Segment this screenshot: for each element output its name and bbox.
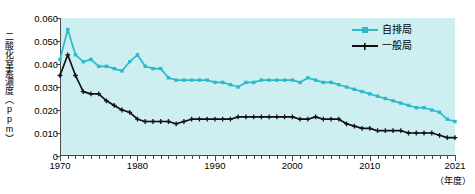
data-point-marker <box>391 99 394 102</box>
data-point-marker <box>113 67 116 70</box>
legend-item[interactable]: 自排局 <box>352 24 412 36</box>
data-point-marker <box>144 65 147 68</box>
data-point-marker <box>158 119 163 124</box>
data-point-marker <box>360 90 363 93</box>
data-point-marker <box>314 78 317 81</box>
data-point-marker <box>415 106 418 109</box>
data-point-marker <box>159 67 162 70</box>
data-point-marker <box>274 115 279 120</box>
data-point-marker <box>198 78 201 81</box>
data-point-marker <box>321 117 326 122</box>
data-point-marker <box>329 117 334 122</box>
data-point-marker <box>229 83 232 86</box>
data-point-marker <box>453 135 458 140</box>
data-point-marker <box>367 126 372 131</box>
data-point-marker <box>151 119 156 124</box>
data-point-marker <box>143 119 148 124</box>
no2-concentration-line-chart: 二酸化窒素濃度（ppm） 00.0100.0200.0300.0400.0500… <box>0 0 475 194</box>
data-point-marker <box>82 60 85 63</box>
data-point-marker <box>228 117 233 122</box>
data-point-marker <box>66 28 69 31</box>
data-point-marker <box>429 131 434 136</box>
data-point-marker <box>205 117 210 122</box>
data-point-marker <box>376 95 379 98</box>
data-point-marker <box>375 128 380 133</box>
data-point-marker <box>283 78 286 81</box>
data-point-marker <box>236 85 239 88</box>
series-2 <box>58 52 458 140</box>
data-point-marker <box>65 52 70 57</box>
data-point-marker <box>89 92 94 97</box>
data-point-marker <box>136 53 139 56</box>
data-point-marker <box>437 133 442 138</box>
data-point-marker <box>305 117 310 122</box>
data-point-marker <box>128 60 131 63</box>
legend-label: 一般局 <box>382 41 412 51</box>
data-point-marker <box>430 108 433 111</box>
data-point-marker <box>244 81 247 84</box>
data-point-marker <box>105 65 108 68</box>
data-point-marker <box>353 88 356 91</box>
data-point-marker <box>236 115 241 120</box>
data-point-marker <box>151 67 154 70</box>
data-point-marker <box>221 81 224 84</box>
data-point-marker <box>446 118 449 121</box>
data-point-marker <box>182 78 185 81</box>
data-point-marker <box>453 120 456 123</box>
data-point-marker <box>260 78 263 81</box>
data-point-marker <box>368 92 371 95</box>
data-point-marker <box>438 111 441 114</box>
data-point-marker <box>345 85 348 88</box>
data-point-marker <box>174 78 177 81</box>
data-point-marker <box>298 81 301 84</box>
data-point-marker <box>243 115 248 120</box>
data-point-marker <box>74 53 77 56</box>
data-point-marker <box>166 119 171 124</box>
data-point-marker <box>445 135 450 140</box>
data-point-marker <box>259 115 264 120</box>
data-point-marker <box>267 115 272 120</box>
data-point-marker <box>298 117 303 122</box>
data-point-marker <box>391 128 396 133</box>
legend-item[interactable]: 一般局 <box>352 40 412 52</box>
data-point-marker <box>313 115 318 120</box>
data-point-marker <box>291 78 294 81</box>
data-point-marker <box>251 115 256 120</box>
data-point-marker <box>275 78 278 81</box>
data-point-marker <box>97 65 100 68</box>
data-point-marker <box>399 101 402 104</box>
data-point-marker <box>252 81 255 84</box>
data-point-marker <box>120 69 123 72</box>
data-point-marker <box>213 117 218 122</box>
data-point-marker <box>182 119 187 124</box>
data-point-marker <box>197 117 202 122</box>
legend-swatch-icon <box>352 41 378 51</box>
data-point-marker <box>89 58 92 61</box>
data-point-marker <box>290 115 295 120</box>
data-point-marker <box>189 117 194 122</box>
legend-swatch-icon <box>352 25 378 35</box>
data-point-marker <box>190 78 193 81</box>
data-point-marker <box>322 81 325 84</box>
data-point-marker <box>213 81 216 84</box>
data-point-marker <box>167 76 170 79</box>
legend: 自排局一般局 <box>352 24 412 52</box>
data-point-marker <box>58 73 63 78</box>
data-point-marker <box>220 117 225 122</box>
data-point-marker <box>58 58 61 61</box>
data-point-marker <box>205 78 208 81</box>
data-point-marker <box>422 106 425 109</box>
series-line <box>60 55 455 138</box>
data-point-marker <box>384 97 387 100</box>
data-point-marker <box>337 83 340 86</box>
data-point-marker <box>406 131 411 136</box>
data-point-marker <box>306 76 309 79</box>
data-point-marker <box>383 128 388 133</box>
legend-label: 自排局 <box>382 25 412 35</box>
data-point-marker <box>329 81 332 84</box>
data-point-marker <box>422 131 427 136</box>
data-point-marker <box>282 115 287 120</box>
data-point-marker <box>407 104 410 107</box>
data-point-marker <box>174 121 179 126</box>
data-point-marker <box>414 131 419 136</box>
